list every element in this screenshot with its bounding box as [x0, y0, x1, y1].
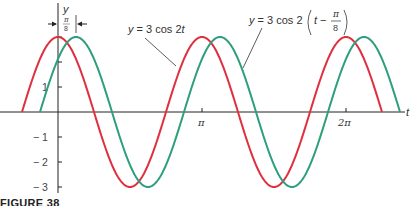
red-curve-label: y = 3 cos 2t [127, 23, 186, 35]
y-axis-label: y [62, 3, 70, 15]
phase-shift-annotation: π 8 [48, 15, 87, 33]
x-axis-label: t [406, 106, 410, 118]
shift-den: 8 [64, 25, 68, 32]
arrow-left-icon [77, 22, 82, 27]
chart: t y 1 − 1 − 2 − 3 π 2π π 8 y = 3 cos 2t … [0, 0, 415, 206]
x-tick-pi: π [197, 117, 205, 128]
y-tick-minus-2: − 2 [33, 156, 48, 168]
svg-text:π: π [332, 9, 340, 19]
green-label-leader [243, 28, 262, 68]
svg-text:y = 3 cos 2: y = 3 cos 2 [248, 14, 303, 26]
y-tick-minus-3: − 3 [33, 181, 48, 193]
svg-text:t −: t − [314, 14, 327, 26]
green-curve-label: y = 3 cos 2 t − π 8 [248, 9, 347, 35]
shift-num: π [63, 16, 69, 24]
svg-text:8: 8 [333, 23, 338, 33]
figure-caption: FIGURE 38 [0, 197, 60, 206]
y-tick-minus-1: − 1 [33, 131, 48, 143]
x-tick-2pi: 2π [337, 117, 351, 128]
arrow-right-icon [52, 22, 57, 27]
red-label-leader [145, 38, 176, 66]
